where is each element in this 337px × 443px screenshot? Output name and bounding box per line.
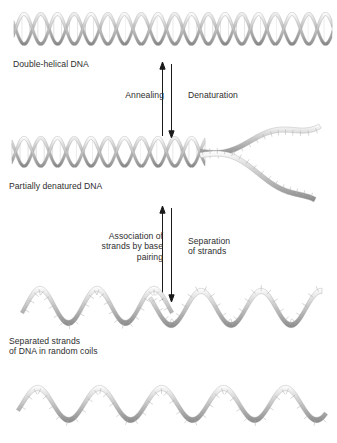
arrow-label-annealing: Annealing — [106, 90, 164, 100]
arrow-label-denaturation: Denaturation — [188, 90, 268, 100]
arrow-label-association-of-strands: Association of strands by base pairing — [93, 231, 163, 262]
separated-strand-upper-illustration — [0, 272, 337, 336]
double-helix-illustration — [0, 0, 337, 58]
caption-separated-strands: Separated strands of DNA in random coils — [9, 336, 98, 357]
partially-denatured-dna-illustration — [0, 120, 337, 220]
arrow-label-separation-of-strands: Separation of strands — [188, 236, 254, 257]
caption-double-helical-dna: Double-helical DNA — [13, 59, 89, 69]
figure-canvas: Double-helical DNA Annealing Denaturatio… — [0, 0, 337, 443]
separated-strand-lower-illustration — [0, 372, 337, 438]
caption-partially-denatured-dna: Partially denatured DNA — [9, 181, 102, 191]
